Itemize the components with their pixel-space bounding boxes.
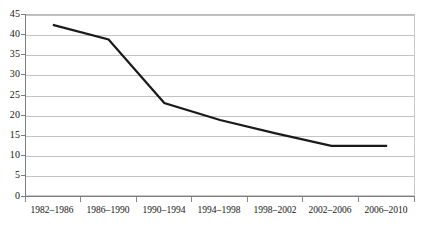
y-axis-line	[25, 14, 26, 197]
x-tick-mark	[80, 197, 81, 202]
x-tick-label: 2006–2010	[364, 204, 407, 216]
x-tick-label: 1994–1998	[197, 204, 240, 216]
gridline	[26, 116, 414, 117]
gridline	[26, 96, 414, 97]
x-tick-mark	[247, 197, 248, 202]
y-tick-mark	[21, 34, 26, 35]
y-tick-label: 35	[1, 49, 20, 59]
y-tick-label: 15	[1, 130, 20, 140]
y-tick-mark	[21, 54, 26, 55]
x-tick-label: 1986–1990	[86, 204, 129, 216]
y-tick-label: 30	[1, 69, 20, 79]
gridline	[26, 55, 414, 56]
gridline	[26, 176, 414, 177]
x-tick-label: 1998–2002	[253, 204, 296, 216]
x-tick-label: 2002–2006	[308, 204, 351, 216]
y-tick-mark	[21, 14, 26, 15]
y-tick-mark	[21, 115, 26, 116]
y-tick-mark	[21, 155, 26, 156]
x-tick-mark	[358, 197, 359, 202]
y-tick-label: 0	[1, 191, 20, 201]
y-tick-mark	[21, 135, 26, 136]
y-tick-label: 5	[1, 170, 20, 180]
x-tick-mark	[302, 197, 303, 202]
line-chart: 45 40 35 30 25 20 15 10 5 0 1982–1986 19…	[0, 0, 425, 226]
x-tick-mark	[136, 197, 137, 202]
x-tick-label: 1982–1986	[30, 204, 73, 216]
y-tick-label: 10	[1, 150, 20, 160]
y-tick-labels: 45 40 35 30 25 20 15 10 5 0	[0, 0, 20, 226]
gridline	[26, 75, 414, 76]
y-tick-mark	[21, 95, 26, 96]
x-tick-mark	[25, 197, 26, 202]
y-tick-label: 40	[1, 29, 20, 39]
x-tick-label: 1990–1994	[142, 204, 185, 216]
gridline	[26, 156, 414, 157]
gridline	[26, 136, 414, 137]
y-tick-label: 20	[1, 110, 20, 120]
gridline	[26, 35, 414, 36]
y-tick-mark	[21, 74, 26, 75]
y-tick-mark	[21, 175, 26, 176]
y-tick-label: 25	[1, 90, 20, 100]
y-tick-label: 45	[1, 9, 20, 19]
x-tick-mark	[191, 197, 192, 202]
x-tick-mark	[414, 197, 415, 202]
plot-area	[25, 14, 415, 196]
x-axis-line	[25, 196, 415, 197]
gridline	[26, 15, 414, 16]
